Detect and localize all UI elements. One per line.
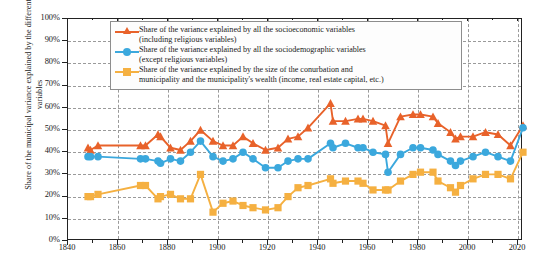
y-tick-label: 90%: [2, 36, 60, 44]
legend-item[interactable]: Share of the variance explained by all t…: [115, 45, 456, 64]
legend-label-line1: Share of the variance explained by all t…: [139, 45, 366, 54]
x-minor-tick: [342, 240, 343, 243]
x-tick-label: 1940: [297, 244, 337, 252]
square-data-point: [274, 204, 281, 211]
y-tick-label: 10%: [2, 214, 60, 222]
x-tick-mark: [417, 240, 418, 245]
square-data-point: [197, 171, 204, 178]
series-0: [84, 99, 528, 154]
x-tick-mark-top: [517, 18, 518, 21]
square-data-point: [167, 191, 174, 198]
x-minor-tick-top: [92, 18, 93, 20]
circle-data-point: [382, 151, 390, 159]
x-minor-tick-top: [492, 18, 493, 20]
y-tick-label: 80%: [2, 58, 60, 66]
x-tick-mark: [67, 240, 68, 245]
legend-label: Share of the variance explained by the s…: [139, 65, 384, 84]
x-minor-tick-top: [192, 18, 193, 20]
square-data-point: [359, 180, 366, 187]
x-tick-label: 1900: [197, 244, 237, 252]
y-tick-label: 20%: [2, 191, 60, 199]
circle-data-point: [342, 140, 350, 148]
square-data-point: [469, 175, 476, 182]
x-tick-label: 1840: [47, 244, 87, 252]
legend-label-line2: municipality and the municipality's weal…: [139, 75, 384, 84]
x-minor-tick: [142, 240, 143, 243]
circle-data-point: [397, 151, 405, 159]
circle-data-point: [329, 144, 337, 152]
legend-label: Share of the variance explained by all t…: [139, 45, 366, 64]
x-tick-mark: [267, 240, 268, 245]
triangle-data-point: [384, 139, 393, 147]
square-data-point: [294, 184, 301, 191]
square-data-point: [397, 177, 404, 184]
circle-data-point: [457, 157, 465, 165]
square-data-point: [494, 171, 501, 178]
square-data-point: [384, 186, 391, 193]
legend-label-line1: Share of the variance explained by the s…: [139, 65, 353, 74]
circle-data-point: [409, 144, 417, 152]
x-minor-tick: [392, 240, 393, 243]
circle-data-point: [239, 148, 247, 156]
square-data-point: [369, 186, 376, 193]
x-tick-mark: [467, 240, 468, 245]
x-tick-label: 1860: [97, 244, 137, 252]
square-data-point: [482, 171, 489, 178]
square-data-point: [284, 193, 291, 200]
square-data-point: [417, 169, 424, 176]
x-minor-tick-top: [342, 18, 343, 20]
circle-data-point: [177, 157, 185, 165]
triangle-data-point: [326, 99, 335, 107]
square-data-point: [187, 195, 194, 202]
circle-data-point: [219, 157, 227, 165]
circle-data-point: [209, 153, 217, 161]
square-data-point: [87, 193, 94, 200]
x-tick-label: 2020: [497, 244, 537, 252]
square-marker: [115, 66, 139, 77]
x-minor-tick: [492, 240, 493, 243]
square-data-point: [209, 209, 216, 216]
square-data-point: [157, 193, 164, 200]
legend-label-line1: Share of the variance explained by all t…: [139, 25, 355, 34]
x-minor-tick-top: [142, 18, 143, 20]
circle-data-point: [369, 148, 377, 156]
square-data-point: [239, 202, 246, 209]
circle-data-point: [262, 164, 270, 172]
x-tick-label: 2000: [447, 244, 487, 252]
y-tick-label: 40%: [2, 147, 60, 155]
square-data-point: [519, 149, 526, 156]
circle-data-point: [494, 153, 502, 161]
legend-item[interactable]: Share of the variance explained by the s…: [115, 65, 456, 84]
x-tick-label: 1960: [347, 244, 387, 252]
square-data-point: [457, 182, 464, 189]
circle-data-point: [417, 144, 425, 152]
square-data-point: [219, 200, 226, 207]
square-data-point: [94, 191, 101, 198]
x-tick-mark-top: [67, 18, 68, 21]
series-1: [84, 124, 527, 176]
x-tick-mark: [517, 240, 518, 245]
legend-label-line2: (including religious variables): [139, 35, 237, 44]
circle-data-point: [304, 155, 312, 163]
circle-data-point: [384, 168, 392, 176]
legend-item[interactable]: Share of the variance explained by all t…: [115, 25, 456, 44]
x-minor-tick-top: [392, 18, 393, 20]
square-data-point: [342, 177, 349, 184]
circle-data-point: [434, 151, 442, 159]
y-tick-label: 60%: [2, 103, 60, 111]
x-minor-tick: [92, 240, 93, 243]
circle-marker: [115, 46, 139, 57]
circle-data-point: [187, 148, 195, 156]
circle-data-point: [87, 153, 95, 161]
square-data-point: [249, 204, 256, 211]
x-tick-mark: [167, 240, 168, 245]
figure: Share of the municipal variance explaine…: [0, 0, 539, 271]
circle-data-point: [359, 144, 367, 152]
x-tick-label: 1920: [247, 244, 287, 252]
triangle-marker: [115, 26, 139, 37]
square-data-point: [452, 189, 459, 196]
x-tick-label: 1980: [397, 244, 437, 252]
x-tick-label: 1880: [147, 244, 187, 252]
circle-data-point: [469, 153, 477, 161]
y-tick-label: 30%: [2, 169, 60, 177]
